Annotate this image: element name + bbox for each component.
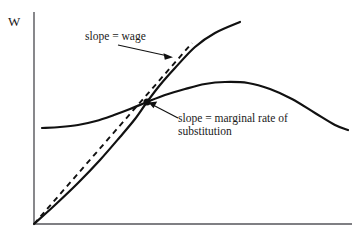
y-axis-label: W xyxy=(8,15,20,28)
tangency-point-marker xyxy=(143,98,150,105)
slope-mrs-annotation-line-1: slope = marginal rate of xyxy=(178,112,288,125)
slope-mrs-arrow xyxy=(149,102,179,118)
slope-wage-arrow xyxy=(118,45,173,60)
slope-wage-annotation-line-1: slope = wage xyxy=(85,30,146,43)
slope-mrs-annotation: slope = marginal rate of substitution xyxy=(178,112,288,139)
wage-tangent-line xyxy=(34,43,192,224)
economics-diagram: W slope = wage slope = marginal rate of … xyxy=(0,0,359,239)
slope-wage-annotation: slope = wage xyxy=(85,30,146,43)
slope-mrs-annotation-line-2: substitution xyxy=(178,125,288,138)
